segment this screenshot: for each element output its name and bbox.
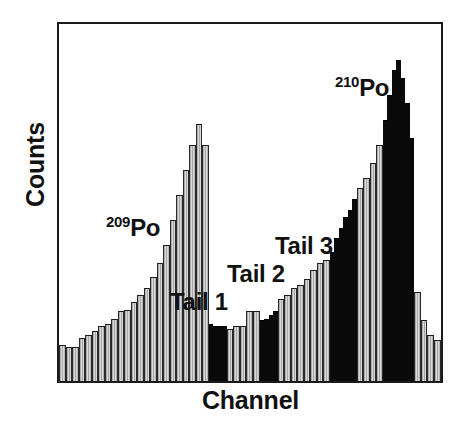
histogram-bar [434, 340, 441, 381]
annotation-po210: 210Po [335, 73, 389, 102]
annotation-tail-2: Tail 2 [227, 260, 285, 288]
alpha-spectrum-figure: Counts Channel 209Po 210Po Tail 1 Tail 2… [0, 0, 464, 429]
annotation-tail-1: Tail 1 [170, 288, 228, 316]
annotation-po209: 209Po [106, 213, 160, 242]
annotation-po210-symbol: Po [359, 74, 389, 101]
annotation-po210-massnumber: 210 [335, 73, 359, 90]
annotation-po209-massnumber: 209 [106, 213, 130, 230]
y-axis-label: Counts [21, 85, 50, 245]
annotation-po209-symbol: Po [130, 214, 160, 241]
annotation-tail-3: Tail 3 [275, 232, 333, 260]
x-axis-label: Channel [57, 386, 444, 415]
